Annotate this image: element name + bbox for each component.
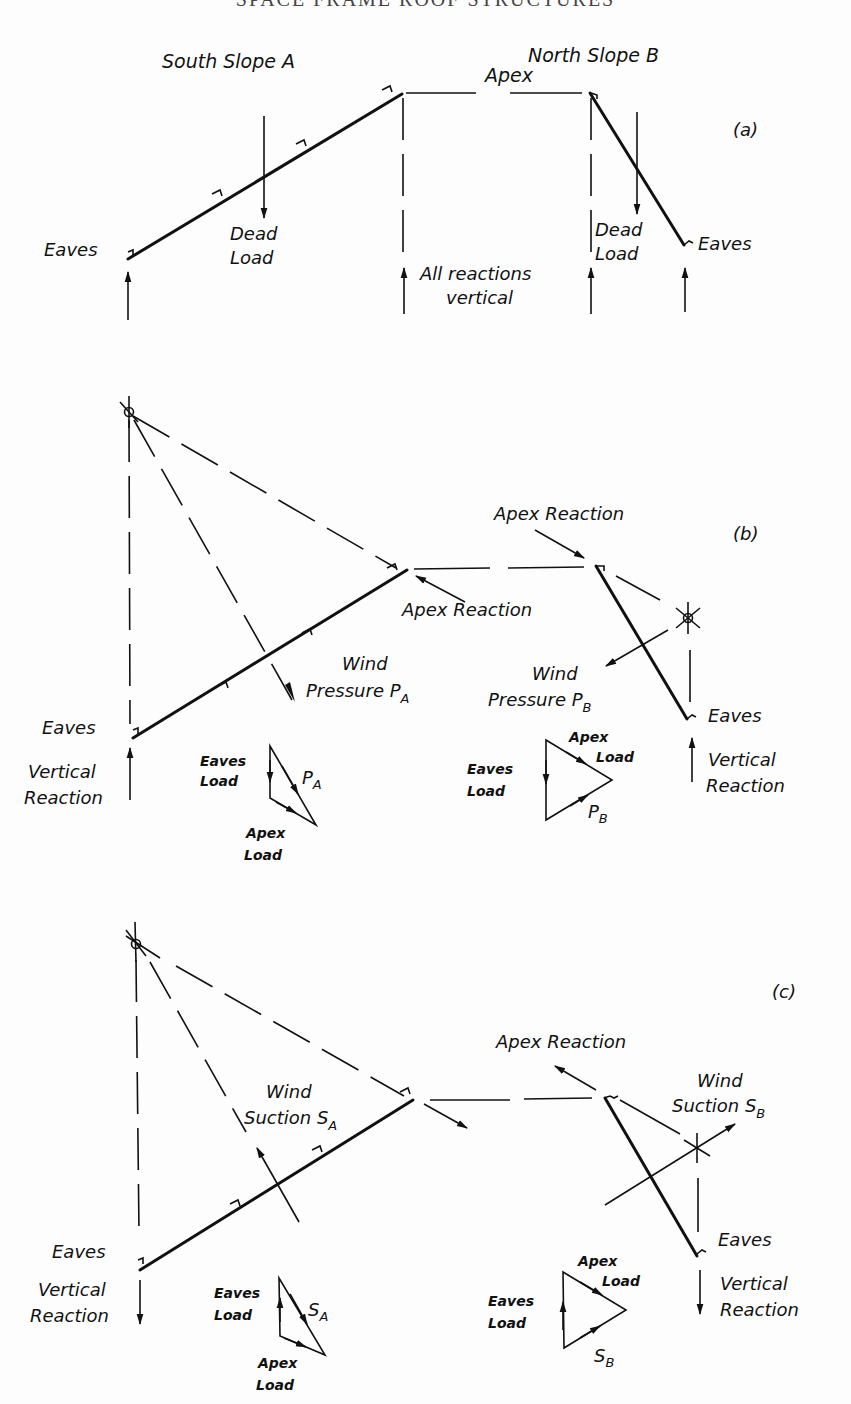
figure-b-tag: (b)	[733, 523, 758, 544]
south-slope-label: South Slope A	[162, 50, 295, 72]
vertical-reaction-line	[136, 960, 139, 1232]
purlin-icon	[604, 1096, 618, 1098]
apex-reaction-line	[133, 416, 396, 568]
figure-a-tag: (a)	[733, 119, 758, 140]
apex-reaction-label: Apex Reaction	[495, 1031, 626, 1052]
apex-reaction-line-b	[616, 576, 660, 600]
apex-reaction-line	[176, 966, 404, 1096]
wind-suction-b-label: Wind	[697, 1070, 743, 1091]
eaves-label-right: Eaves	[708, 705, 762, 726]
resultant-arrow	[282, 766, 298, 794]
vertical-reaction-label-right: Reaction	[720, 1299, 799, 1320]
vertical-reaction-label-right: Vertical	[720, 1273, 788, 1294]
eaves-load-label: Eaves	[467, 761, 513, 777]
force-triangle-a: Eaves Load SA Apex Load	[214, 1278, 328, 1393]
apex-load-arrow	[580, 1282, 602, 1295]
wind-pressure-a-label: Pressure PA	[306, 680, 409, 706]
pole-tick	[126, 936, 160, 958]
apex-reaction-line-b	[620, 1100, 680, 1134]
wind-suction-line	[150, 962, 246, 1132]
eaves-label-left: Eaves	[44, 239, 98, 260]
force-triangle-b: Apex Load Eaves Load SB	[488, 1253, 641, 1370]
roof-load-diagram: South Slope A North Slope B Apex (a)	[0, 0, 851, 1404]
north-slope-member	[596, 566, 687, 719]
figure-c: (c)	[30, 922, 799, 1393]
resultant-arrow	[580, 1326, 600, 1338]
apex-load-label: Apex	[577, 1253, 618, 1269]
apex-load-arrow	[276, 802, 296, 813]
vertical-reaction-label-left: Vertical	[28, 761, 96, 782]
eaves-load-label: Load	[200, 773, 239, 789]
figure-b: (b)	[24, 396, 785, 863]
apex-reaction-arrow-b	[555, 1066, 596, 1090]
eaves-load-label: Eaves	[214, 1285, 260, 1301]
vertical-reaction-label-right: Vertical	[708, 749, 776, 770]
apex-load-label: Apex	[257, 1355, 298, 1371]
vertical-reaction-label-left: Reaction	[30, 1305, 109, 1326]
purlin-icon	[212, 190, 222, 196]
arrow-head	[285, 682, 295, 702]
apex-load-label: Apex	[245, 825, 286, 841]
apex-reaction-arrow-a	[424, 1104, 467, 1128]
wind-suction-arrow-b	[605, 1124, 735, 1205]
eaves-support-left-icon	[138, 1258, 143, 1264]
wind-pressure-b-label: Wind	[532, 663, 578, 684]
apex-reaction-label-left: Apex Reaction	[401, 599, 532, 620]
apex-load-label: Load	[256, 1377, 295, 1393]
reactions-note: All reactions	[419, 263, 531, 284]
purlin-icon	[387, 564, 397, 570]
purlin-icon	[400, 1088, 410, 1094]
apex-reaction-label-top: Apex Reaction	[493, 503, 624, 524]
force-triangle-b: Apex Load Eaves Load PB	[467, 729, 635, 826]
figure-a: South Slope A North Slope B Apex (a)	[44, 44, 758, 320]
resultant-label: PA	[302, 767, 322, 792]
wind-pressure-a-label: Wind	[342, 653, 388, 674]
wind-pressure-b-label: Pressure PB	[488, 689, 592, 715]
vertical-reaction-line	[129, 420, 130, 724]
vertical-reaction-label-left: Reaction	[24, 787, 103, 808]
eaves-load-label: Eaves	[200, 753, 246, 769]
eaves-support-right-icon	[697, 1250, 706, 1254]
wind-suction-arrow-a	[257, 1148, 299, 1222]
apex-load-label: Apex	[568, 729, 609, 745]
vertical-reaction-label-left: Vertical	[38, 1279, 106, 1300]
dead-load-label-a: Dead	[230, 223, 278, 244]
resultant-label: PB	[588, 801, 608, 826]
eaves-label-right: Eaves	[718, 1229, 772, 1250]
force-triangle-a: Eaves Load PA Apex Load	[200, 746, 322, 863]
wind-suction-b-label: Suction SB	[672, 1095, 765, 1121]
figure-c-tag: (c)	[772, 981, 796, 1002]
eaves-load-label: Eaves	[488, 1293, 534, 1309]
apex-label: Apex	[483, 64, 534, 86]
resultant-label: SB	[594, 1345, 614, 1370]
eaves-support-right-icon	[687, 715, 696, 719]
figure-page: SPACE FRAME ROOF STRUCTURES South Slope …	[0, 0, 851, 1404]
north-slope-label: North Slope B	[528, 44, 659, 66]
purlin-icon	[312, 1146, 322, 1152]
eaves-support-right-icon	[684, 241, 693, 245]
dead-load-label-b: Dead	[595, 219, 643, 240]
eaves-label-left: Eaves	[42, 717, 96, 738]
purlin-icon	[382, 86, 392, 92]
eaves-support-left-icon	[133, 728, 138, 734]
apex-load-arrow	[566, 752, 586, 764]
apex-link	[414, 568, 490, 569]
vertical-reaction-label-right: Reaction	[706, 775, 785, 796]
dead-load-label-a: Load	[230, 247, 274, 268]
eaves-load-label: Load	[214, 1307, 253, 1323]
reactions-note: vertical	[446, 287, 513, 308]
apex-link	[524, 1098, 592, 1099]
apex-link	[508, 567, 584, 568]
wind-suction-a-label: Wind	[266, 1081, 312, 1102]
eaves-support-left-icon	[128, 250, 133, 256]
apex-load-label: Load	[244, 847, 283, 863]
resultant-arrow	[290, 1294, 307, 1324]
apex-reaction-arrow-b	[535, 530, 584, 558]
purlin-icon	[296, 140, 306, 146]
eaves-label-right: Eaves	[698, 233, 752, 254]
eaves-load-label: Load	[467, 783, 506, 799]
resultant-label: SA	[308, 1299, 328, 1324]
eaves-load-label: Load	[488, 1315, 527, 1331]
dead-load-label-b: Load	[595, 243, 639, 264]
apex-load-label: Load	[596, 749, 635, 765]
